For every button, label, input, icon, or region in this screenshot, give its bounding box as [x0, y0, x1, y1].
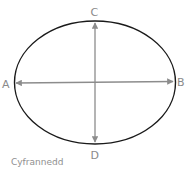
credit-text: Cyfrannedd [11, 157, 63, 167]
label-c: C [91, 6, 99, 19]
label-a: A [2, 78, 10, 91]
label-d: D [91, 149, 99, 162]
ellipse-diagram: A B C D [0, 0, 189, 173]
label-b: B [177, 76, 185, 89]
